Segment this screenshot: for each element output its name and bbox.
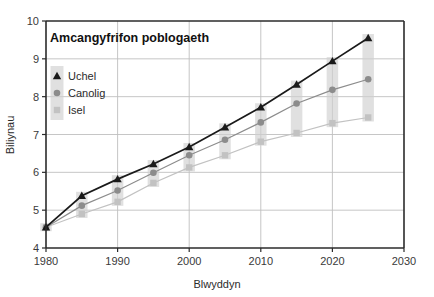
marker-square [79, 211, 85, 217]
marker-circle [79, 202, 86, 209]
marker-square [222, 152, 228, 158]
marker-circle [54, 90, 61, 97]
population-projection-chart: 45678910198019902000201020202030 Amcangy… [0, 0, 434, 297]
y-tick-label: 7 [33, 129, 39, 141]
marker-square [329, 120, 335, 126]
y-tick-label: 9 [33, 53, 39, 65]
x-tick-label: 2020 [320, 255, 344, 267]
y-tick-label: 5 [33, 204, 39, 216]
y-axis-title: Biliynau [4, 116, 16, 155]
marker-circle [186, 152, 193, 159]
marker-circle [222, 136, 229, 143]
marker-square [186, 164, 192, 170]
x-tick-label: 2030 [392, 255, 416, 267]
marker-square [258, 138, 264, 144]
chart-figure: 45678910198019902000201020202030 Amcangy… [0, 0, 434, 297]
y-tick-label: 6 [33, 166, 39, 178]
marker-circle [150, 169, 157, 176]
y-tick-label: 8 [33, 91, 39, 103]
y-tick-label: 4 [33, 242, 39, 254]
marker-circle [258, 119, 265, 126]
legend-label: Canolig [68, 87, 105, 99]
marker-square [114, 199, 120, 205]
marker-square [54, 107, 60, 113]
marker-circle [293, 100, 300, 107]
x-tick-label: 2010 [249, 255, 273, 267]
marker-circle [329, 87, 336, 94]
marker-square [365, 114, 371, 120]
marker-square [293, 130, 299, 136]
legend-label: Uchel [68, 70, 96, 82]
chart-title: Amcangyfrifon poblogaeth [50, 31, 209, 45]
uncertainty-band [291, 81, 302, 137]
x-tick-label: 1980 [34, 255, 58, 267]
x-tick-label: 2000 [177, 255, 201, 267]
marker-square [150, 180, 156, 186]
legend-label: Isel [68, 104, 85, 116]
y-tick-label: 10 [27, 15, 39, 27]
x-tick-label: 1990 [105, 255, 129, 267]
marker-circle [365, 76, 372, 83]
x-axis-title: Blwyddyn [193, 278, 240, 290]
marker-circle [114, 187, 121, 194]
